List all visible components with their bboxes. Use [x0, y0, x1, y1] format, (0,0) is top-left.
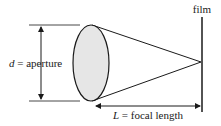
film-label: film	[193, 3, 212, 15]
aperture-text: = aperture	[15, 57, 63, 69]
focal-text: = focal length	[119, 109, 183, 121]
aperture-diagram: d = aperture film L = focal length	[0, 0, 221, 126]
aperture-label: d = aperture	[9, 57, 62, 69]
focal-length-label: L = focal length	[112, 109, 184, 121]
lens-ellipse	[73, 25, 109, 101]
focal-variable: L	[112, 109, 119, 121]
